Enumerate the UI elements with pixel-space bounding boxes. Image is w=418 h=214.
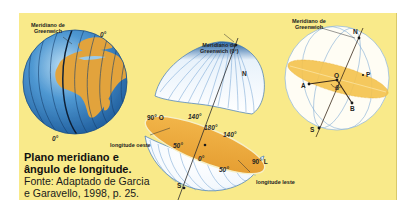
east-90-label: 90° L: [252, 158, 268, 165]
deg-50-right: 50°: [219, 166, 229, 173]
geo-meridian-label-line2: Greenwich: [295, 24, 323, 30]
globe-bottom-degree: 0°: [52, 135, 58, 142]
globe-top-degree: 0°: [100, 31, 106, 38]
geo-north-label: N: [353, 28, 358, 35]
deg-50-left: 50°: [173, 142, 183, 149]
figure-caption: Plano meridiano e ângulo de longitude. F…: [24, 151, 150, 199]
caption-title-line1: Plano meridiano e: [24, 151, 150, 163]
deg-140-right: 140°: [223, 131, 236, 138]
split-south-label: S: [177, 182, 181, 189]
deg-0: 0°: [198, 155, 204, 162]
west-longitude-label: longitude oeste: [110, 142, 151, 148]
geo-meridian-label: Meridiano de Greenwich: [292, 18, 326, 30]
split-north-label: N: [242, 70, 247, 77]
globe-meridian-label-line2: Greenwich: [34, 28, 62, 34]
geo-point-o: O: [334, 72, 339, 79]
geo-south-label: S: [310, 126, 314, 133]
split-meridian-label: Meridiano de Greenwich (0°): [200, 42, 239, 54]
earth-globe: [23, 30, 127, 136]
caption-source-line1: Fonte: Adaptado de Garcia: [24, 175, 150, 187]
geo-point-a: A: [301, 82, 306, 89]
geo-point-p: P: [366, 71, 370, 78]
east-longitude-label: longitude leste: [256, 179, 295, 185]
split-meridian-label-line2: Greenwich (0°): [200, 48, 239, 54]
caption-title-line2: ângulo de longitude.: [24, 163, 150, 175]
geo-point-b: B: [350, 105, 355, 112]
west-90-label: 90° O: [147, 114, 164, 121]
caption-source-line2: e Garavello, 1998, p. 25.: [24, 187, 150, 199]
geo-angle-symbol: ß: [335, 84, 339, 91]
globe-meridian-label: Meridiano de Greenwich: [31, 22, 65, 34]
deg-180: 180°: [204, 124, 217, 131]
deg-140-left: 140°: [188, 113, 201, 120]
